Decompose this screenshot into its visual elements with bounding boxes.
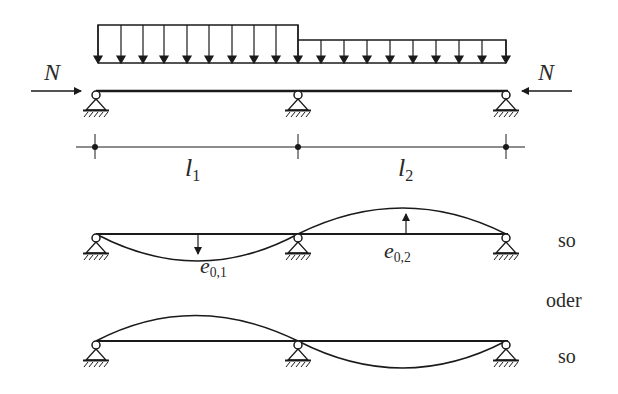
support-right — [493, 91, 519, 117]
support-left — [83, 91, 109, 117]
span-label-1: l1 — [185, 153, 200, 185]
span-index: 1 — [192, 167, 200, 184]
imperfection-symbol: e — [200, 253, 210, 278]
support-right-v1 — [493, 234, 519, 260]
caption-variant-2: so — [558, 345, 576, 368]
beam-diagram — [0, 0, 618, 394]
imperfection-symbol: e — [384, 238, 394, 263]
distributed-load-span-1 — [98, 25, 506, 63]
span-label-2: l2 — [398, 153, 413, 185]
axial-force-label-left: N — [44, 59, 60, 86]
load-arrows — [94, 25, 510, 63]
imperfection-index: 0,2 — [394, 250, 411, 265]
separator-label: oder — [546, 289, 582, 312]
span-index: 2 — [405, 167, 413, 184]
axial-force-label-right: N — [538, 59, 554, 86]
imperfection-label-2: e0,2 — [384, 238, 411, 266]
caption-variant-1: so — [558, 229, 576, 252]
imperfection-label-1: e0,1 — [200, 253, 227, 281]
support-left-v2 — [83, 341, 109, 367]
support-middle — [285, 91, 311, 117]
imperfection-index: 0,1 — [210, 265, 227, 280]
